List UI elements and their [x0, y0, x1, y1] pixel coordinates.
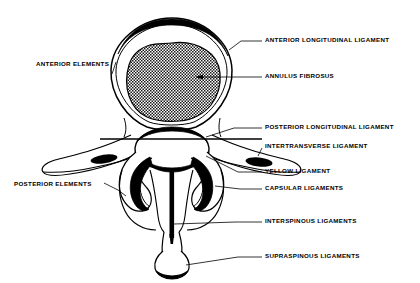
leader-anterior-longitudinal-ligament [229, 41, 262, 50]
label-interspinous-ligaments: INTERSPINOUS LIGAMENTS [265, 218, 357, 224]
right-lamina-inner-sweep [179, 170, 193, 232]
leader-supraspinous-ligaments [186, 257, 262, 265]
label-posterior-longitudinal-ligament: POSTERIOR LONGITUDINAL LIGAMENT [265, 124, 394, 130]
anterior-elements-group [111, 18, 232, 137]
leader-interspinous-ligaments [174, 222, 262, 224]
label-yellow-ligament: YELLOW LIGAMENT [265, 168, 330, 174]
vertebra-ligaments-diagram: ANTERIOR LONGITUDINAL LIGAMENT ANNULUS F… [0, 0, 420, 283]
annulus-fibrosus [127, 42, 220, 121]
left-pedicle-junction [124, 118, 126, 137]
label-posterior-elements: POSTERIOR ELEMENTS [14, 181, 92, 187]
label-annulus-fibrosus: ANNULUS FIBROSUS [265, 73, 334, 79]
interspinous-ligament [170, 168, 175, 238]
posterior-elements-group [42, 127, 301, 279]
right-pedicle-junction [219, 118, 221, 137]
label-intertransverse-ligament: INTERTRANSVERSE LIGAMENT [265, 143, 368, 149]
label-capsular-ligaments: CAPSULAR LIGAMENTS [265, 185, 343, 191]
label-anterior-longitudinal-ligament: ANTERIOR LONGITUDINAL LIGAMENT [265, 37, 389, 43]
left-lamina-inner-sweep [150, 170, 164, 232]
label-anterior-elements: ANTERIOR ELEMENTS [36, 61, 109, 67]
label-supraspinous-ligaments: SUPRASPINOUS LIGAMENTS [265, 253, 360, 259]
